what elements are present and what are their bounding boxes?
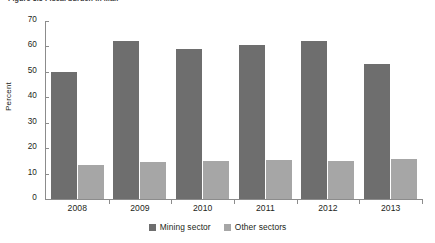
x-tick-label-2013: 2013 [359, 203, 422, 213]
chart-legend: Mining sectorOther sectors [0, 222, 435, 232]
bar-other-2012 [328, 161, 354, 199]
y-tick-label: 20 [28, 142, 37, 151]
y-tick-label: 30 [28, 117, 37, 126]
bar-mining-2011 [239, 45, 265, 199]
bar-other-2011 [266, 160, 292, 199]
bar-mining-2013 [364, 64, 390, 199]
bar-other-2010 [203, 161, 229, 199]
legend-item[interactable]: Other sectors [224, 222, 287, 232]
y-tick-mark [45, 199, 49, 200]
bar-group [171, 21, 234, 199]
x-tick-label-2008: 2008 [46, 203, 109, 213]
y-tick-20: 20 [0, 148, 45, 149]
y-tick-10: 10 [0, 174, 45, 175]
x-tick-label-2009: 2009 [109, 203, 172, 213]
bar-mining-2008 [51, 72, 77, 199]
bar-mining-2010 [176, 49, 202, 199]
bar-other-2008 [78, 165, 104, 199]
bar-mining-2009 [113, 41, 139, 199]
bar-chart: Percent 010203040506070 2008200920102011… [0, 0, 435, 243]
bar-group [109, 21, 172, 199]
x-tick-label-2011: 2011 [234, 203, 297, 213]
plot-area [46, 21, 422, 199]
y-tick-label: 70 [28, 15, 37, 24]
y-tick-label: 40 [28, 91, 37, 100]
legend-swatch-other [224, 224, 231, 231]
legend-swatch-mining [149, 224, 156, 231]
bar-mining-2012 [301, 41, 327, 199]
bar-other-2009 [140, 162, 166, 199]
bar-group [46, 21, 109, 199]
x-axis-labels: 200820092010201120122013 [46, 203, 422, 217]
x-tick-label-2012: 2012 [297, 203, 360, 213]
x-tick-mark [422, 199, 423, 204]
bar-group [359, 21, 422, 199]
y-tick-60: 60 [0, 46, 45, 47]
y-tick-label: 60 [28, 40, 37, 49]
bar-group [297, 21, 360, 199]
x-tick-label-2010: 2010 [171, 203, 234, 213]
y-tick-label: 10 [28, 168, 37, 177]
bar-other-2013 [391, 159, 417, 199]
bar-group [234, 21, 297, 199]
legend-label: Mining sector [160, 222, 211, 232]
y-tick-50: 50 [0, 72, 45, 73]
legend-item[interactable]: Mining sector [149, 222, 211, 232]
y-tick-0: 0 [0, 199, 45, 200]
y-tick-70: 70 [0, 21, 45, 22]
legend-label: Other sectors [235, 222, 287, 232]
y-tick-30: 30 [0, 123, 45, 124]
y-tick-label: 0 [32, 193, 37, 202]
y-tick-label: 50 [28, 66, 37, 75]
y-tick-40: 40 [0, 97, 45, 98]
